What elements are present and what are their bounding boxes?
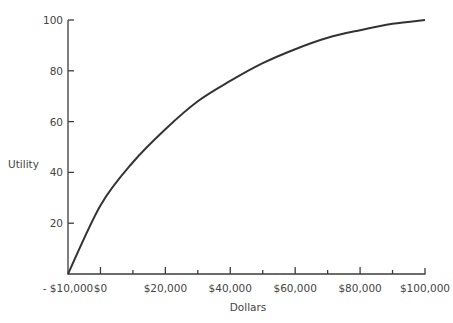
x-tick-label: $80,000	[338, 282, 381, 294]
y-tick-label: 80	[50, 65, 63, 77]
x-tick-label: $0	[94, 282, 107, 294]
utility-curve	[68, 20, 425, 274]
x-tick-label: - $10,000	[43, 282, 94, 294]
y-tick-label: 60	[50, 116, 63, 128]
x-axis-title: Dollars	[230, 301, 267, 313]
axes	[68, 20, 425, 274]
y-axis-ticks: 20406080100	[43, 14, 74, 229]
x-tick-label: $20,000	[144, 282, 187, 294]
axis-lines	[68, 20, 425, 274]
x-tick-label: $60,000	[273, 282, 316, 294]
y-tick-label: 100	[43, 14, 63, 26]
x-tick-label: $40,000	[209, 282, 252, 294]
utility-chart: - $10,000$0$20,000$40,000$60,000$80,000$…	[0, 0, 453, 323]
y-axis-title: Utility	[8, 158, 39, 170]
y-tick-label: 20	[50, 217, 63, 229]
x-tick-label: $100,000	[400, 282, 450, 294]
y-tick-label: 40	[50, 166, 63, 178]
x-axis-ticks: - $10,000$0$20,000$40,000$60,000$80,000$…	[43, 267, 450, 294]
